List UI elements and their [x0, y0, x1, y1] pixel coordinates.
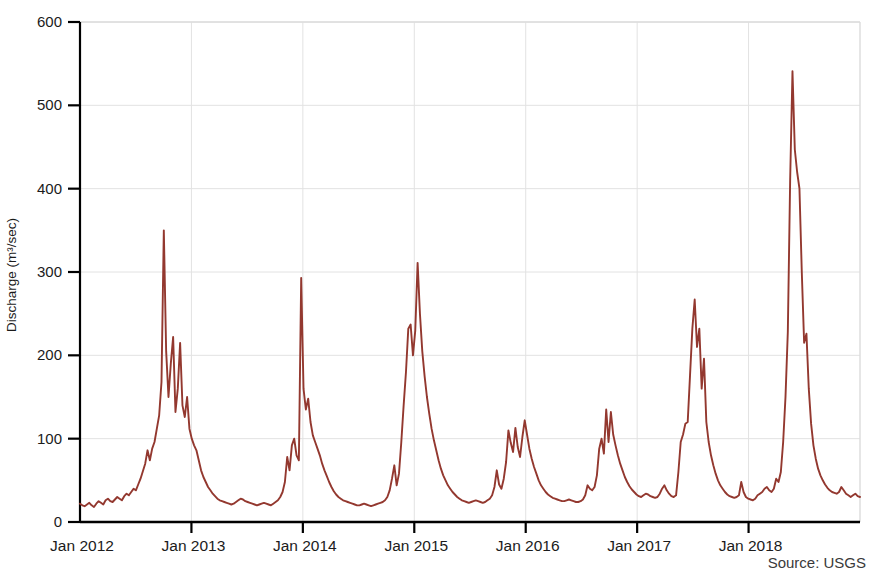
- y-tick-label: 400: [37, 180, 62, 197]
- source-credit: Source: USGS: [768, 554, 866, 571]
- hydrograph-chart: 0100200300400500600 Jan 2012Jan 2013Jan …: [0, 0, 873, 571]
- x-tick-label: Jan 2017: [607, 537, 671, 554]
- x-tick-label: Jan 2018: [719, 537, 783, 554]
- x-tick-label: Jan 2014: [273, 537, 337, 554]
- y-tick-label: 0: [54, 513, 62, 530]
- y-axis-title: Discharge (m³/sec): [4, 218, 19, 332]
- chart-container: 0100200300400500600 Jan 2012Jan 2013Jan …: [0, 0, 873, 571]
- y-tick-label: 600: [37, 13, 62, 30]
- x-tick-label: Jan 2012: [50, 537, 114, 554]
- svg-text:Source: USGS: Source: USGS: [768, 554, 866, 571]
- y-tick-label: 300: [37, 263, 62, 280]
- svg-text:Discharge (m³/sec): Discharge (m³/sec): [4, 218, 19, 332]
- y-tick-label: 500: [37, 96, 62, 113]
- x-tick-label: Jan 2016: [496, 537, 560, 554]
- x-tick-label: Jan 2015: [384, 537, 448, 554]
- x-tick-label: Jan 2013: [162, 537, 226, 554]
- y-tick-label: 200: [37, 346, 62, 363]
- y-tick-label: 100: [37, 430, 62, 447]
